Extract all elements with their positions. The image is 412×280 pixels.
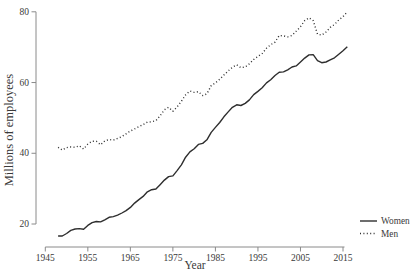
y-tick-label: 60 (20, 78, 30, 88)
y-tick-label: 20 (20, 219, 30, 229)
chart-figure: 2040608019451955196519751985199520052015… (0, 0, 412, 280)
legend-label-men: Men (381, 229, 398, 239)
y-tick-label: 40 (20, 148, 30, 158)
series-line-men (58, 12, 347, 150)
y-axis-title: Millions of employees (2, 49, 18, 211)
plot-area: 2040608019451955196519751985199520052015… (0, 0, 412, 280)
series-line-women (58, 47, 347, 236)
x-axis-title: Year (45, 259, 345, 271)
legend-label-women: Women (381, 216, 410, 226)
y-tick-label: 80 (20, 7, 30, 17)
